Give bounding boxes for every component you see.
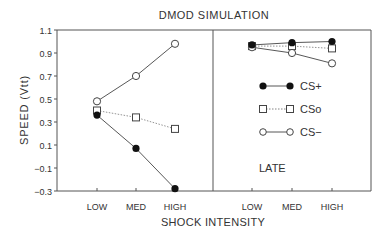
filled-circle-marker-icon — [288, 39, 295, 46]
panel-label-late: LATE — [259, 162, 286, 174]
y-tick-label: 0.7 — [39, 72, 52, 82]
filled-circle-marker-icon — [171, 185, 178, 192]
x-tick-label: MED — [282, 202, 303, 212]
x-tick-label: HIGH — [164, 202, 187, 212]
open-circle-marker-icon — [132, 72, 139, 79]
y-tick-label: 1.1 — [39, 26, 52, 36]
legend-label-cs-minus: CS− — [300, 126, 322, 138]
plot-frame — [57, 30, 371, 191]
legend-item-cs-minus: CS− — [260, 126, 322, 138]
open-square-marker-icon — [172, 125, 179, 132]
open-square-marker-icon — [260, 106, 267, 113]
filled-circle-marker-icon — [93, 112, 100, 119]
chart-canvas: DMOD SIMULATION SPEED (Vtt) SHOCK INTENS… — [0, 0, 387, 234]
y-tick-label: 0.1 — [39, 141, 52, 151]
filled-circle-marker-icon — [248, 41, 255, 48]
filled-circle-marker-icon — [259, 82, 266, 89]
x-axis: LOWMEDHIGHLOWMEDHIGH — [87, 188, 344, 212]
legend-label-cs-plus: CS+ — [300, 80, 322, 92]
legend: CS+ CSo CS− — [259, 80, 321, 138]
filled-circle-marker-icon — [328, 38, 335, 45]
x-axis-label: SHOCK INTENSITY — [161, 216, 265, 228]
open-circle-marker-icon — [260, 129, 267, 136]
legend-item-cs-plus: CS+ — [259, 80, 321, 92]
x-tick-label: LOW — [87, 202, 108, 212]
open-circle-marker-icon — [328, 60, 335, 67]
open-square-marker-icon — [133, 114, 140, 121]
y-tick-label: 0.5 — [39, 95, 52, 105]
filled-circle-marker-icon — [286, 82, 293, 89]
y-axis-label: SPEED (Vtt) — [18, 75, 30, 145]
open-circle-marker-icon — [171, 40, 178, 47]
y-tick-label: −0.1 — [34, 164, 52, 174]
y-tick-label: 0.3 — [39, 118, 52, 128]
legend-label-cs-o: CSo — [300, 103, 321, 115]
filled-circle-marker-icon — [132, 145, 139, 152]
y-tick-label: −0.3 — [34, 187, 52, 197]
open-circle-marker-icon — [287, 129, 294, 136]
x-tick-label: LOW — [242, 202, 263, 212]
x-tick-label: MED — [126, 202, 147, 212]
panel-early — [93, 40, 178, 192]
legend-item-cs-o: CSo — [260, 103, 322, 115]
panel-late — [248, 38, 335, 67]
open-square-marker-icon — [329, 45, 336, 52]
y-axis: 1.10.90.70.50.30.1−0.1−0.3 — [34, 26, 57, 197]
y-tick-label: 0.9 — [39, 49, 52, 59]
open-square-marker-icon — [287, 106, 294, 113]
chart-title: DMOD SIMULATION — [159, 9, 270, 21]
open-circle-marker-icon — [288, 49, 295, 56]
open-circle-marker-icon — [93, 98, 100, 105]
x-tick-label: HIGH — [321, 202, 344, 212]
